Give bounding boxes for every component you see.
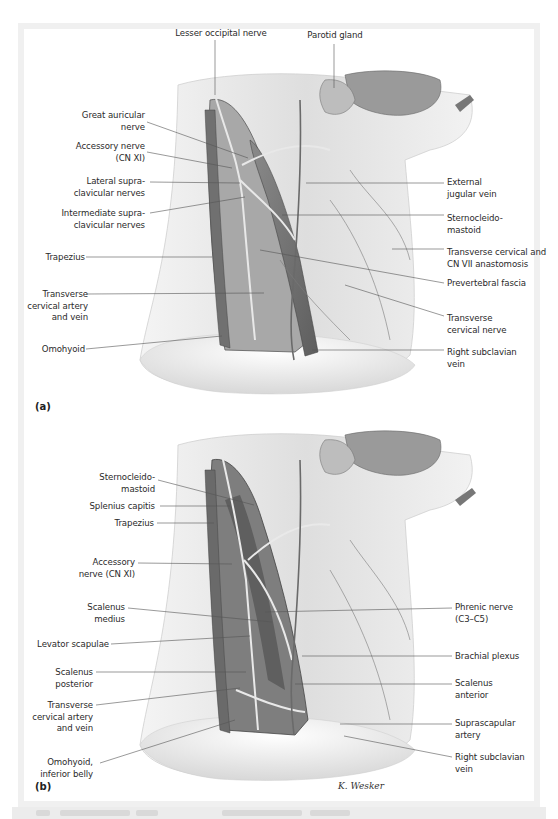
label-great-auricular-nerve: Great auricular nerve — [40, 110, 145, 133]
label-sternocleidomastoid-a: Sternocleido- mastoid — [447, 213, 547, 236]
panel-label-a: (a) — [35, 401, 51, 412]
label-levator-scapulae: Levator scapulae — [20, 639, 109, 651]
caption-strip — [12, 807, 546, 819]
label-accessory-nerve-a: Accessory nerve (CN XI) — [40, 141, 145, 164]
label-splenius-capitis: Splenius capitis — [60, 501, 155, 513]
label-accessory-nerve-b: Accessory nerve (CN XI) — [50, 557, 135, 580]
panel-label-b: (b) — [35, 781, 51, 792]
label-external-jugular-vein: External jugular vein — [447, 177, 547, 200]
label-omohyoid-inferior-belly: Omohyoid, inferior belly — [20, 757, 93, 780]
label-transverse-cervical-nerve: Transverse cervical nerve — [447, 313, 547, 336]
label-trapezius-a: Trapezius — [30, 252, 85, 264]
caption-fragment — [136, 810, 158, 816]
label-sternocleidomastoid-b: Sternocleido- mastoid — [60, 472, 155, 495]
label-prevertebral-fascia: Prevertebral fascia — [447, 278, 557, 290]
label-scalenus-medius: Scalenus medius — [50, 602, 125, 625]
label-brachial-plexus: Brachial plexus — [455, 651, 550, 663]
caption-fragment — [36, 810, 50, 816]
caption-fragment — [222, 810, 302, 816]
label-lateral-supraclavicular-nerves: Lateral supra- clavicular nerves — [40, 176, 145, 199]
label-omohyoid: Omohyoid — [30, 344, 85, 356]
label-right-subclavian-vein-a: Right subclavian vein — [447, 347, 547, 370]
caption-fragment — [310, 810, 350, 816]
illustrator-signature: K. Wesker — [338, 781, 384, 791]
label-intermediate-supraclavicular-nerves: Intermediate supra- clavicular nerves — [30, 208, 145, 231]
label-suprascapular-artery: Suprascapular artery — [455, 718, 550, 741]
label-scalenus-anterior: Scalenus anterior — [455, 678, 550, 701]
label-transverse-cervical-cn7-anastomosis: Transverse cervical and CN VII anastomos… — [447, 247, 557, 270]
label-scalenus-posterior: Scalenus posterior — [30, 667, 93, 690]
label-transverse-cervical-artery-vein-a: Transverse cervical artery and vein — [20, 289, 88, 324]
label-right-subclavian-vein-b: Right subclavian vein — [455, 752, 550, 775]
label-lesser-occipital-nerve: Lesser occipital nerve — [166, 28, 276, 40]
caption-fragment — [60, 810, 130, 816]
label-phrenic-nerve: Phrenic nerve (C3–C5) — [455, 602, 550, 625]
label-transverse-cervical-artery-vein-b: Transverse cervical artery and vein — [20, 700, 93, 735]
label-parotid-gland: Parotid gland — [300, 30, 370, 42]
label-trapezius-b: Trapezius — [60, 518, 154, 530]
